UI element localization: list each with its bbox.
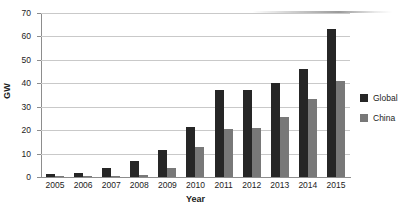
y-tick-label: 10 <box>5 149 31 159</box>
bar-global-2008 <box>130 161 139 177</box>
bar-china-2006 <box>83 176 92 177</box>
bar-china-2008 <box>139 175 148 177</box>
bar-china-2015 <box>336 81 345 177</box>
bar-china-2005 <box>55 176 64 177</box>
legend: GlobalChina <box>360 93 398 133</box>
bar-global-2014 <box>299 69 308 177</box>
bar-group <box>266 13 294 177</box>
legend-swatch-global <box>360 94 368 102</box>
y-tick-label: 50 <box>5 55 31 65</box>
bar-global-2013 <box>271 83 280 177</box>
legend-item-china: China <box>360 113 398 123</box>
y-tick-label: 0 <box>5 172 31 182</box>
bar-group <box>153 13 181 177</box>
legend-item-global: Global <box>360 93 398 103</box>
bar-china-2010 <box>195 147 204 177</box>
bar-china-2012 <box>252 128 261 177</box>
bar-group <box>41 13 69 177</box>
y-tick-label: 70 <box>5 8 31 18</box>
bar-global-2011 <box>215 90 224 177</box>
bar-global-2007 <box>102 168 111 177</box>
bar-china-2013 <box>280 117 289 177</box>
bar-global-2012 <box>243 90 252 177</box>
bar-group <box>210 13 238 177</box>
bar-group <box>294 13 322 177</box>
x-tick-label: 2015 <box>319 180 353 190</box>
y-tick-mark <box>37 177 41 178</box>
x-axis-title: Year <box>41 194 350 204</box>
bar-global-2006 <box>74 173 83 177</box>
bar-group <box>238 13 266 177</box>
legend-swatch-china <box>360 114 368 122</box>
bar-global-2005 <box>46 174 55 177</box>
bar-group <box>181 13 209 177</box>
legend-label: China <box>373 113 395 123</box>
y-tick-label: 30 <box>5 102 31 112</box>
bar-global-2009 <box>158 150 167 177</box>
x-axis-line <box>41 177 351 178</box>
bar-chart-figure: GW 010203040506070 200520062007200820092… <box>0 0 420 212</box>
bar-china-2014 <box>308 99 317 177</box>
bar-china-2009 <box>167 168 176 177</box>
legend-label: Global <box>373 93 398 103</box>
bar-group <box>322 13 350 177</box>
bar-group <box>69 13 97 177</box>
y-tick-label: 60 <box>5 31 31 41</box>
bar-global-2010 <box>186 127 195 177</box>
bar-global-2015 <box>327 29 336 177</box>
bar-china-2011 <box>224 129 233 177</box>
y-tick-label: 40 <box>5 78 31 88</box>
bar-group <box>97 13 125 177</box>
plot-area <box>41 13 350 177</box>
bar-china-2007 <box>111 176 120 177</box>
bar-group <box>125 13 153 177</box>
y-tick-label: 20 <box>5 125 31 135</box>
